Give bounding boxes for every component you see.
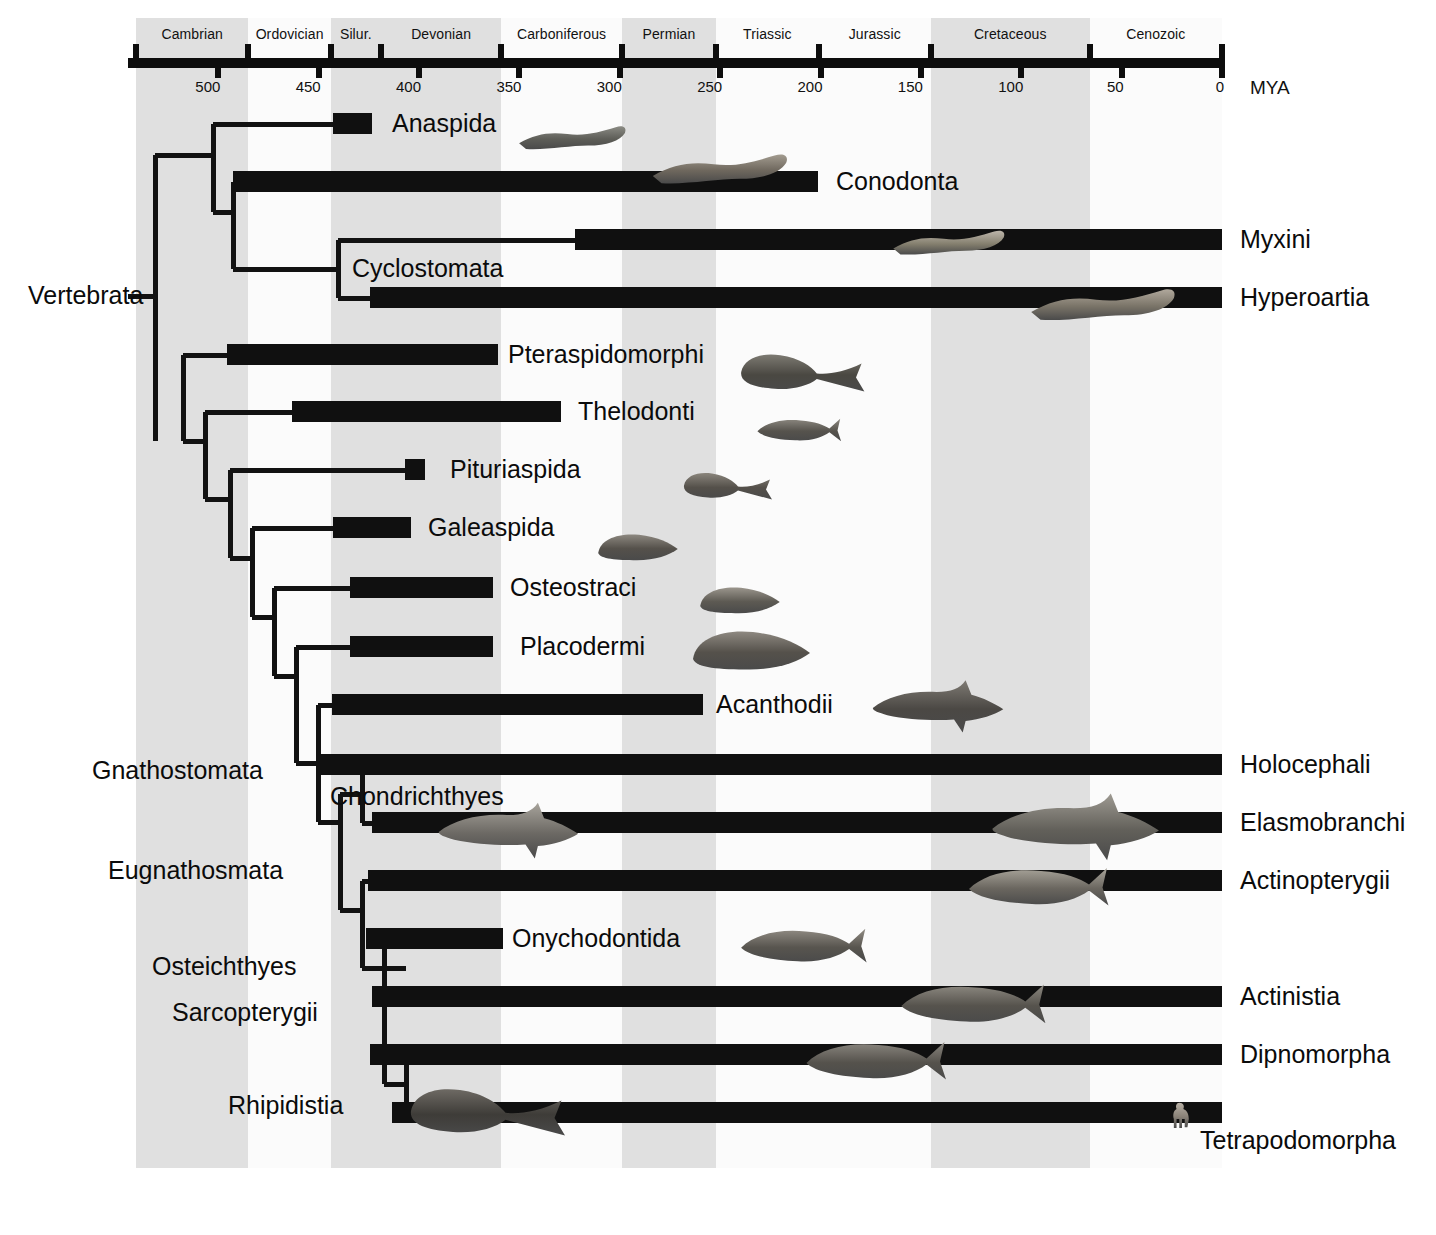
tree-branch-horizontal [384, 966, 406, 971]
taxon-label-thelodonti: Thelodonti [578, 399, 695, 424]
range-bar-dipnomorpha [370, 1044, 1222, 1065]
mya-tick-label-450: 450 [259, 78, 321, 95]
period-label-cenozoic: Cenozoic [1090, 26, 1222, 42]
period-label-cretaceous: Cretaceous [931, 26, 1090, 42]
range-bar-acanthodii [332, 694, 703, 715]
mya-tick-label-350: 350 [459, 78, 521, 95]
taxon-label-osteostraci: Osteostraci [510, 575, 636, 600]
tree-branch-vertical [153, 296, 158, 441]
range-bar-osteostraci [350, 577, 493, 598]
period-label-carboniferous: Carboniferous [501, 26, 621, 42]
period-label-ordovician: Ordovician [248, 26, 330, 42]
range-bar-holocephali [320, 754, 1222, 775]
period-boundary-tick [133, 44, 139, 68]
tree-branch-horizontal [183, 439, 205, 444]
clade-label-chondrichthyes: Chondrichthyes [330, 784, 504, 809]
period-boundary-tick [713, 44, 719, 68]
mya-tick-label-300: 300 [560, 78, 622, 95]
tree-branch-vertical [231, 182, 236, 269]
mya-tick-label-400: 400 [359, 78, 421, 95]
period-boundary-tick [619, 44, 625, 68]
clade-label-eugnathosmata: Eugnathosmata [108, 858, 283, 883]
mya-tick-label-0: 0 [1162, 78, 1224, 95]
range-bar-placodermi [350, 636, 493, 657]
tree-branch-horizontal [252, 526, 336, 531]
mya-tick-label-500: 500 [158, 78, 220, 95]
taxon-label-elasmobranchi: Elasmobranchi [1240, 810, 1405, 835]
taxon-label-conodonta: Conodonta [836, 169, 958, 194]
period-boundary-tick [816, 44, 822, 68]
tree-branch-horizontal [274, 586, 353, 591]
mya-tick-label-200: 200 [761, 78, 823, 95]
period-boundary-tick [928, 44, 934, 68]
mya-tick-0 [1219, 68, 1225, 78]
period-label-permian: Permian [622, 26, 716, 42]
mya-tick-500 [215, 68, 221, 78]
tree-branch-horizontal [233, 267, 338, 272]
tree-branch-vertical [203, 412, 208, 499]
range-bar-pteraspidomorphi [227, 344, 498, 365]
range-bar-hyperoartia [370, 287, 1222, 308]
taxon-label-dipnomorpha: Dipnomorpha [1240, 1042, 1390, 1067]
tree-branch-vertical [153, 155, 158, 296]
range-bar-pituriaspida [405, 459, 425, 480]
tree-branch-horizontal [296, 761, 318, 766]
tree-branch-vertical [338, 794, 343, 910]
tree-branch-horizontal [183, 353, 230, 358]
tree-branch-horizontal [274, 674, 296, 679]
timeline-axis [128, 58, 1222, 68]
taxon-label-actinopterygii: Actinopterygii [1240, 868, 1390, 893]
taxon-label-actinistia: Actinistia [1240, 984, 1340, 1009]
mya-tick-300 [617, 68, 623, 78]
clade-label-rhipidistia: Rhipidistia [228, 1093, 343, 1118]
mya-tick-50 [1119, 68, 1125, 78]
clade-label-osteichthyes: Osteichthyes [152, 954, 297, 979]
period-boundary-tick [498, 44, 504, 68]
clade-label-vertebrata: Vertebrata [28, 283, 143, 308]
tree-branch-horizontal [384, 1082, 406, 1087]
tree-branch-vertical [336, 240, 341, 298]
tree-branch-horizontal [230, 556, 252, 561]
mya-tick-250 [717, 68, 723, 78]
mya-tick-label-100: 100 [961, 78, 1023, 95]
range-bar-conodonta [233, 171, 818, 192]
mya-tick-350 [516, 68, 522, 78]
mya-tick-150 [918, 68, 924, 78]
range-bar-actinistia [372, 986, 1222, 1007]
tree-branch-horizontal [362, 966, 384, 971]
period-boundary-tick [378, 44, 384, 68]
taxon-label-anaspida: Anaspida [392, 111, 496, 136]
taxon-label-holocephali: Holocephali [1240, 752, 1371, 777]
figure-canvas: CambrianOrdovicianSilur.DevonianCarbonif… [0, 0, 1436, 1235]
tree-branch-vertical [272, 588, 277, 676]
tree-branch-horizontal [252, 615, 274, 620]
tree-branch-horizontal [213, 122, 335, 127]
mya-axis-unit-label: MYA [1250, 77, 1290, 99]
period-boundary-tick [245, 44, 251, 68]
range-bar-onychodontida [366, 928, 503, 949]
tree-branch-horizontal [338, 296, 373, 301]
mya-tick-450 [316, 68, 322, 78]
tree-branch-horizontal [205, 410, 295, 415]
clade-label-gnathostomata: Gnathostomata [92, 758, 263, 783]
period-boundary-tick [328, 44, 334, 68]
taxon-label-acanthodii: Acanthodii [716, 692, 833, 717]
taxon-label-onychodontida: Onychodontida [512, 926, 680, 951]
taxon-label-myxini: Myxini [1240, 227, 1311, 252]
period-label-cambrian: Cambrian [136, 26, 248, 42]
tree-branch-horizontal [230, 468, 408, 473]
taxon-label-pteraspidomorphi: Pteraspidomorphi [508, 342, 704, 367]
mya-tick-label-250: 250 [660, 78, 722, 95]
period-label-triassic: Triassic [716, 26, 818, 42]
period-label-devonian: Devonian [381, 26, 501, 42]
period-boundary-tick [1087, 44, 1093, 68]
range-bar-elasmobranchi [372, 812, 1222, 833]
taxon-label-galeaspida: Galeaspida [428, 515, 554, 540]
range-bar-myxini [575, 229, 1222, 250]
tree-branch-horizontal [318, 820, 340, 825]
tree-branch-vertical [228, 470, 233, 558]
tree-branch-horizontal [340, 908, 362, 913]
range-bar-actinopterygii [368, 870, 1222, 891]
tree-branch-vertical [211, 124, 216, 212]
taxon-label-hyperoartia: Hyperoartia [1240, 285, 1369, 310]
